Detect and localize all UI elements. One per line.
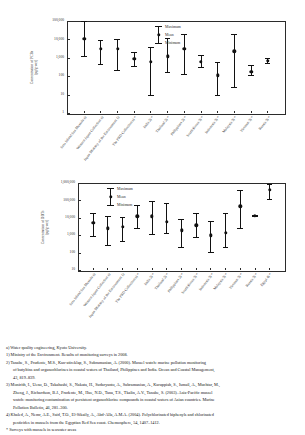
error-bar-min-cap (164, 233, 170, 234)
error-bar-max-cap (114, 39, 120, 40)
x-tick-mark (100, 111, 101, 114)
x-tick-label: India 2) * (153, 273, 156, 275)
x-tick-mark (217, 111, 218, 114)
x-tick-label: Western Japan Collection a) (102, 116, 105, 118)
legend-ddts: Maximum Mean Minimum (104, 186, 174, 209)
error-bar-max-cap (231, 34, 237, 35)
error-bar-max-cap (198, 55, 204, 56)
y-tick-mark (67, 21, 70, 22)
error-bar-max-cap (208, 221, 214, 222)
x-tick-label: Malaysia 3) * (235, 116, 238, 118)
error-bar-min-cap (165, 72, 171, 73)
reference-4-line2: pesticides in mussels from the Egyptian … (6, 420, 300, 427)
x-tick-mark (251, 111, 252, 114)
error-bar (122, 217, 123, 241)
x-tick-mark (269, 268, 270, 271)
error-bar (240, 190, 241, 228)
reference-2-line2: of butyltins and organochlorines in coas… (6, 367, 300, 374)
legend-pcbs: Maximum Mean Minimum (152, 24, 222, 47)
legend-max-cap (107, 188, 114, 189)
error-bar-min-cap (81, 56, 87, 57)
y-tick-mark (67, 58, 70, 59)
legend-label-mean: Mean (165, 33, 174, 37)
error-bar-min-cap (193, 237, 199, 238)
y-tick-label: 100 (48, 251, 75, 255)
y-tick-mark (78, 183, 81, 184)
x-tick-mark (167, 111, 168, 114)
x-tick-label: Seto Inland Sea Mussels a) (94, 273, 97, 275)
error-bar-max-cap (237, 190, 243, 191)
y-tick-label: 100,000 (48, 199, 75, 203)
x-tick-label: Thailand 2) * (167, 273, 170, 275)
legend-label-mean: Mean (117, 195, 126, 199)
x-tick-label: Indonesia 3) * (212, 273, 215, 275)
error-bar-min-cap (181, 74, 187, 75)
x-tick-mark (181, 268, 182, 271)
y-tick-label: 100,000 (37, 19, 64, 23)
legend-min-cap (155, 43, 162, 44)
y-tick-label: 100 (37, 74, 64, 78)
error-bar-max-cap (81, 21, 87, 22)
legend-label-maximum: Maximum (165, 25, 181, 29)
y-tick-mark (78, 235, 81, 236)
y-tick-mark (67, 76, 70, 77)
x-tick-mark (134, 111, 135, 114)
x-tick-mark (152, 268, 153, 271)
error-bar-max-cap (131, 52, 137, 53)
error-bar-max-cap (178, 219, 184, 220)
y-tick-label: 1,000 (37, 56, 64, 60)
error-bar (217, 62, 218, 95)
error-bar-min-cap (90, 236, 96, 237)
x-tick-label: Russia 3) * (269, 116, 272, 118)
error-bar-max-cap (267, 184, 273, 185)
error-bar-min-cap (98, 64, 104, 65)
error-bar (100, 40, 101, 64)
error-bar-max-cap (120, 217, 126, 218)
error-bar-min-cap (148, 95, 154, 96)
legend-label-maximum: Maximum (117, 187, 133, 191)
x-tick-label: Vietnam 3) * (241, 273, 244, 275)
x-tick-label: Vietnam 3) * (252, 116, 255, 118)
error-bar (181, 219, 182, 248)
x-tick-label: Philippines 2) * (182, 273, 185, 275)
y-tick-mark (67, 95, 70, 96)
error-bar (234, 34, 235, 87)
error-bar (117, 39, 118, 70)
chart-pcbs: Concentration of PCBs (pg/g-wet) 1101001… (0, 0, 305, 150)
x-tick-label: India 2) * (152, 116, 155, 118)
error-bar-max-cap (215, 62, 221, 63)
error-bar-min-cap (265, 63, 271, 64)
error-bar-max-cap (105, 216, 111, 217)
x-tick-label: South Korea 3) * (197, 273, 200, 275)
x-tick-mark (107, 268, 108, 271)
x-tick-mark (137, 268, 138, 271)
error-bar-max-cap (248, 65, 254, 66)
error-bar-min-cap (215, 95, 221, 96)
x-tick-mark (240, 268, 241, 271)
x-tick-mark (84, 111, 85, 114)
x-tick-label: The PRD Collection a) * (135, 116, 138, 118)
reference-2-line1: 2) Tanabe, S., Prudente, M.S., Kan-atire… (6, 360, 300, 367)
y-tick-mark (78, 253, 81, 254)
error-bar-min-cap (178, 247, 184, 248)
x-tick-mark (117, 111, 118, 114)
reference-1: 1) Ministry of the Environment. Results … (6, 352, 300, 359)
y-tick-label: 1,000,000 (48, 181, 75, 185)
error-bar-max-cap (98, 40, 104, 41)
x-tick-mark (255, 268, 256, 271)
error-bar (150, 47, 151, 95)
reference-4-line1: 4) Khaled, A., Nemr, A.E., Said, T.O., E… (6, 412, 300, 419)
x-tick-mark (234, 111, 235, 114)
legend-min-cap (107, 205, 114, 206)
error-bar-min-cap (208, 252, 214, 253)
error-bar-min-cap (105, 245, 111, 246)
x-tick-label: South Korea 3) * (202, 116, 205, 118)
x-tick-mark (196, 268, 197, 271)
error-bar (107, 216, 108, 246)
error-bar-min-cap (134, 228, 140, 229)
x-tick-mark (122, 268, 123, 271)
x-tick-label: Thailand 2) * (168, 116, 171, 118)
reference-3-line1: 3) Monirith, I., Ueno, D., Takahashi, S.… (6, 382, 300, 389)
x-tick-mark (166, 268, 167, 271)
